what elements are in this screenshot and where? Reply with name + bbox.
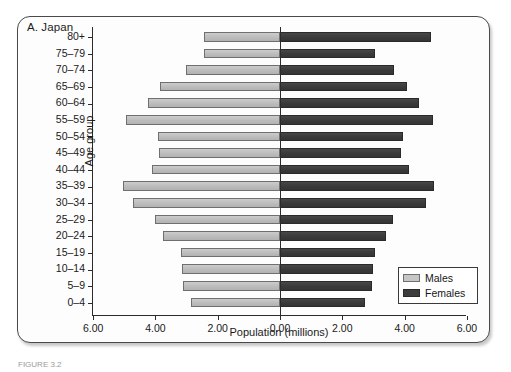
y-tick-45-49: 45–49 xyxy=(28,145,92,162)
y-tick-label: 45–49 xyxy=(25,146,85,158)
bar-males-40-44 xyxy=(152,165,280,175)
bar-males-30-34 xyxy=(133,198,280,208)
y-tick-label: 40–44 xyxy=(25,163,85,175)
y-tick-mark xyxy=(88,137,92,138)
y-tick-mark xyxy=(88,54,92,55)
y-tick-label: 50–54 xyxy=(25,130,85,142)
x-tick-mark xyxy=(155,316,156,320)
chart-legend: Males Females xyxy=(398,267,478,304)
y-tick-label: 55–59 xyxy=(25,113,85,125)
y-tick-label: 70–74 xyxy=(25,63,85,75)
bar-row xyxy=(92,245,466,262)
bar-females-20-24 xyxy=(280,231,386,241)
bar-males-50-54 xyxy=(158,132,280,142)
y-tick-65-69: 65–69 xyxy=(28,79,92,96)
y-tick-mark xyxy=(88,120,92,121)
bar-males-70-74 xyxy=(186,65,280,75)
x-tick-mark xyxy=(342,316,343,320)
bar-females-10-14 xyxy=(280,264,373,274)
bar-females-30-34 xyxy=(280,198,426,208)
bar-males-10-14 xyxy=(182,264,280,274)
x-axis-title: Population (millions) xyxy=(92,326,466,338)
bar-females-55-59 xyxy=(280,115,433,125)
bar-row xyxy=(92,46,466,63)
y-tick-label: 30–34 xyxy=(25,196,85,208)
bar-row xyxy=(92,129,466,146)
y-tick-20-24: 20–24 xyxy=(28,228,92,245)
bar-row xyxy=(92,95,466,112)
y-tick-label: 15–19 xyxy=(25,246,85,258)
bar-row xyxy=(92,62,466,79)
y-tick-35-39: 35–39 xyxy=(28,178,92,195)
x-axis-line xyxy=(92,315,466,316)
bar-males-60-64 xyxy=(148,98,280,108)
legend-item-females: Females xyxy=(403,286,473,300)
bar-females-5-9 xyxy=(280,281,372,291)
bar-males-45-49 xyxy=(159,148,280,158)
bar-row xyxy=(92,228,466,245)
y-tick-70-74: 70–74 xyxy=(28,62,92,79)
y-tick-label: 35–39 xyxy=(25,179,85,191)
bar-row xyxy=(92,162,466,179)
bar-row xyxy=(92,79,466,96)
y-tick-label: 20–24 xyxy=(25,229,85,241)
y-tick-mark xyxy=(88,70,92,71)
y-tick-40-44: 40–44 xyxy=(28,162,92,179)
bar-males-25-29 xyxy=(155,215,280,225)
y-tick-mark xyxy=(88,253,92,254)
legend-item-males: Males xyxy=(403,271,473,285)
y-tick-label: 75–79 xyxy=(25,47,85,59)
y-tick-80+: 80+ xyxy=(28,29,92,46)
bar-females-35-39 xyxy=(280,181,434,191)
bar-females-40-44 xyxy=(280,165,409,175)
bar-males-35-39 xyxy=(123,181,280,191)
y-tick-mark xyxy=(88,270,92,271)
bar-males-0-4 xyxy=(191,298,280,308)
y-tick-15-19: 15–19 xyxy=(28,245,92,262)
bar-row xyxy=(92,112,466,129)
bar-females-60-64 xyxy=(280,98,419,108)
y-tick-50-54: 50–54 xyxy=(28,129,92,146)
bar-males-15-19 xyxy=(181,248,280,258)
y-tick-mark xyxy=(88,303,92,304)
bar-females-45-49 xyxy=(280,148,401,158)
y-tick-mark xyxy=(88,153,92,154)
x-tick-mark xyxy=(405,316,406,320)
y-tick-label: 5–9 xyxy=(25,279,85,291)
y-tick-label: 25–29 xyxy=(25,213,85,225)
y-tick-60-64: 60–64 xyxy=(28,95,92,112)
bar-males-20-24 xyxy=(163,231,280,241)
x-tick-mark xyxy=(280,316,281,320)
bar-females-25-29 xyxy=(280,215,393,225)
bar-row xyxy=(92,145,466,162)
bar-females-70-74 xyxy=(280,65,394,75)
y-tick-mark xyxy=(88,37,92,38)
bar-males-65-69 xyxy=(160,82,280,92)
bar-row xyxy=(92,212,466,229)
bar-row xyxy=(92,195,466,212)
bar-males-75-79 xyxy=(204,49,280,59)
y-tick-label: 80+ xyxy=(25,30,85,42)
bar-males-55-59 xyxy=(126,115,280,125)
bar-females-75-79 xyxy=(280,49,375,59)
y-tick-label: 60–64 xyxy=(25,96,85,108)
y-tick-25-29: 25–29 xyxy=(28,212,92,229)
y-tick-mark xyxy=(88,87,92,88)
y-tick-55-59: 55–59 xyxy=(28,112,92,129)
x-tick-mark xyxy=(218,316,219,320)
y-tick-30-34: 30–34 xyxy=(28,195,92,212)
x-tick-mark xyxy=(467,316,468,320)
legend-label-females: Females xyxy=(425,287,465,299)
bar-row xyxy=(92,29,466,46)
y-tick-mark xyxy=(88,220,92,221)
y-tick-mark xyxy=(88,286,92,287)
legend-swatch-females-icon xyxy=(403,289,420,298)
y-tick-mark xyxy=(88,236,92,237)
bar-males-80+ xyxy=(204,32,280,42)
bar-females-50-54 xyxy=(280,132,403,142)
y-tick-label: 0–4 xyxy=(25,296,85,308)
y-tick-mark xyxy=(88,187,92,188)
bar-females-65-69 xyxy=(280,82,407,92)
y-tick-0-4: 0–4 xyxy=(28,295,92,312)
zero-baseline xyxy=(280,27,281,316)
